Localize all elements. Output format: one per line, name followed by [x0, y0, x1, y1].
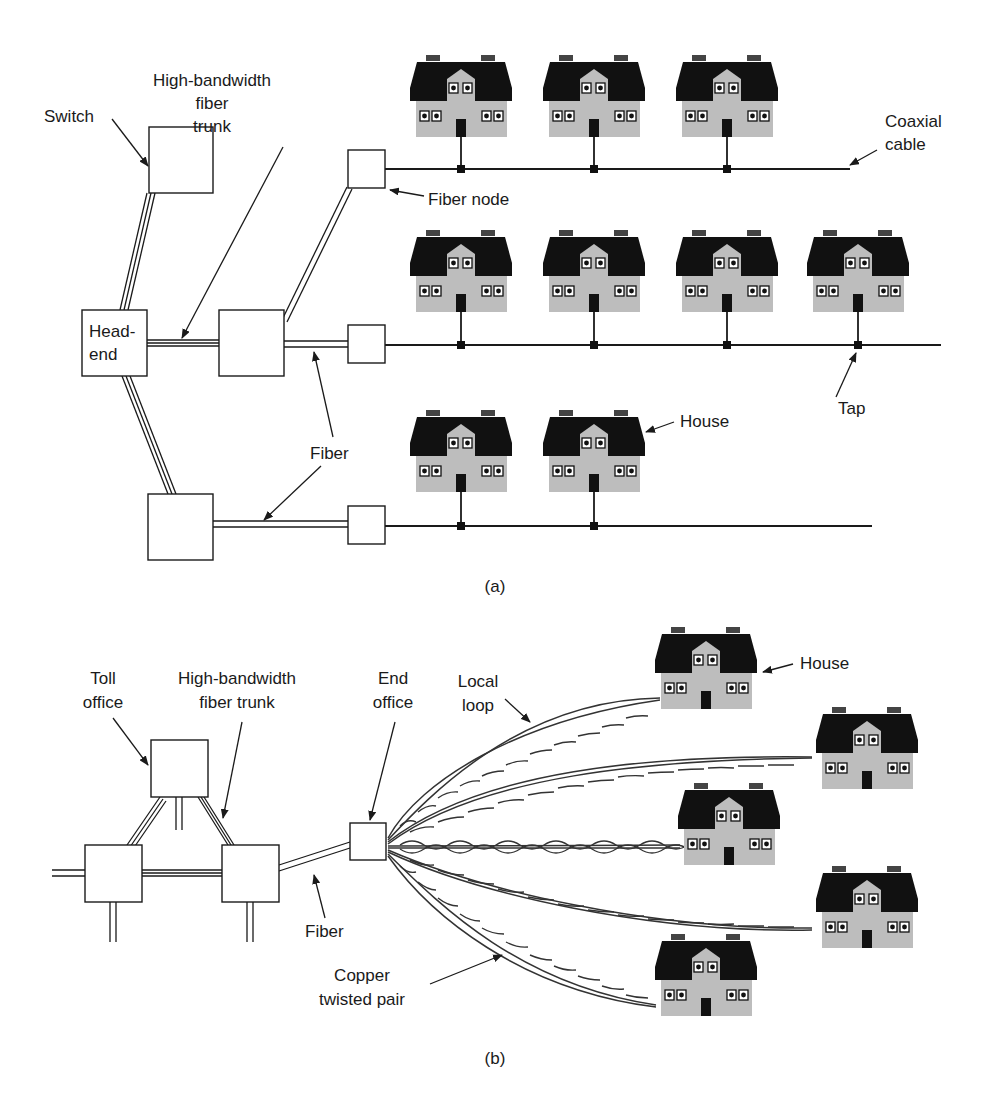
label-end-2: office — [373, 693, 413, 712]
trunk-headend-hub — [147, 340, 220, 346]
arrow-coax — [850, 150, 877, 165]
arrow-toll — [113, 718, 148, 765]
panel-a-cable-network: Switch High-bandwidth fiber trunk Head- … — [44, 55, 942, 596]
switch-box-right — [222, 845, 279, 902]
label-coax-2: cable — [885, 135, 926, 154]
stub-left-west — [52, 870, 85, 876]
arrow-end-office — [370, 722, 395, 820]
label-headend-2: end — [89, 345, 117, 364]
trunk-headend-lower-hub — [122, 376, 176, 494]
lower-hub-box — [148, 494, 213, 560]
label-trunk-b-1: High-bandwidth — [178, 669, 296, 688]
label-toll-2: office — [83, 693, 123, 712]
fiber-node-1 — [348, 150, 385, 188]
label-copper-2: twisted pair — [319, 990, 405, 1009]
switch-box-left — [85, 845, 142, 902]
house-row2-4 — [807, 230, 909, 349]
house-row2-1 — [410, 230, 512, 349]
fiber-node-2 — [348, 325, 385, 363]
trunk-toll-left — [127, 797, 166, 849]
label-house-b: House — [800, 654, 849, 673]
house-b-4 — [816, 866, 918, 948]
trunk-headend-switch — [120, 193, 155, 310]
end-office-box — [350, 823, 386, 860]
label-trunk-1: High-bandwidth — [153, 71, 271, 90]
house-row2-2 — [543, 230, 645, 349]
panel-b-telephone-network: Toll office High-bandwidth fiber trunk E… — [52, 627, 918, 1068]
arrow-local-loop — [505, 699, 530, 722]
house-b-1 — [655, 627, 757, 709]
switch-box — [149, 127, 213, 193]
label-trunk-3: trunk — [193, 117, 231, 136]
stub-right-down — [247, 902, 253, 942]
arrow-switch — [112, 119, 148, 166]
arrow-copper — [430, 955, 502, 984]
arrow-fiber-lower — [264, 466, 321, 520]
house-row2-3 — [676, 230, 778, 349]
cable-vs-telephone-diagram: Switch High-bandwidth fiber trunk Head- … — [0, 0, 989, 1103]
house-b-3 — [678, 783, 780, 865]
house-b-5 — [655, 934, 757, 1016]
label-headend-1: Head- — [89, 322, 135, 341]
label-tap: Tap — [838, 399, 865, 418]
fiber-hub-node-2 — [284, 341, 348, 347]
label-toll-1: Toll — [90, 669, 116, 688]
label-fiber-node: Fiber node — [428, 190, 509, 209]
arrow-trunk-b — [223, 722, 242, 818]
house-b-2 — [816, 707, 918, 789]
fiber-hub-node-1 — [282, 187, 352, 322]
house-row1-2 — [543, 55, 645, 173]
fiber-node-3 — [348, 506, 385, 544]
label-house-a: House — [680, 412, 729, 431]
arrow-house-b — [763, 664, 793, 672]
trunk-toll-right — [198, 797, 234, 845]
label-loop-2: loop — [462, 696, 494, 715]
fiber-lowerhub-node-3 — [213, 521, 348, 527]
label-fiber-b: Fiber — [305, 922, 344, 941]
stub-left-down — [110, 902, 116, 942]
label-end-1: End — [378, 669, 408, 688]
label-coax-1: Coaxial — [885, 112, 942, 131]
hub-box — [219, 310, 284, 376]
stub-toll-down — [176, 797, 182, 830]
caption-b: (b) — [485, 1049, 506, 1068]
arrow-fiber-b — [314, 875, 325, 918]
arrow-tap — [836, 353, 856, 397]
house-row1-1 — [410, 55, 512, 173]
label-loop-1: Local — [458, 672, 499, 691]
trunk-left-right — [141, 870, 222, 876]
headend-box — [82, 310, 147, 376]
label-copper-1: Copper — [334, 966, 390, 985]
arrow-fiber-upper — [314, 352, 333, 437]
house-row1-3 — [676, 55, 778, 173]
house-row3-1 — [410, 410, 512, 530]
house-row3-2 — [543, 410, 645, 530]
label-fiber: Fiber — [310, 444, 349, 463]
fiber-to-end-office — [279, 842, 350, 871]
toll-office-box — [151, 740, 208, 797]
caption-a: (a) — [485, 577, 506, 596]
label-switch: Switch — [44, 107, 94, 126]
label-trunk-2: fiber — [195, 94, 228, 113]
label-trunk-b-2: fiber trunk — [199, 693, 275, 712]
arrow-house-a — [646, 422, 674, 432]
arrow-fiber-node — [390, 190, 424, 196]
